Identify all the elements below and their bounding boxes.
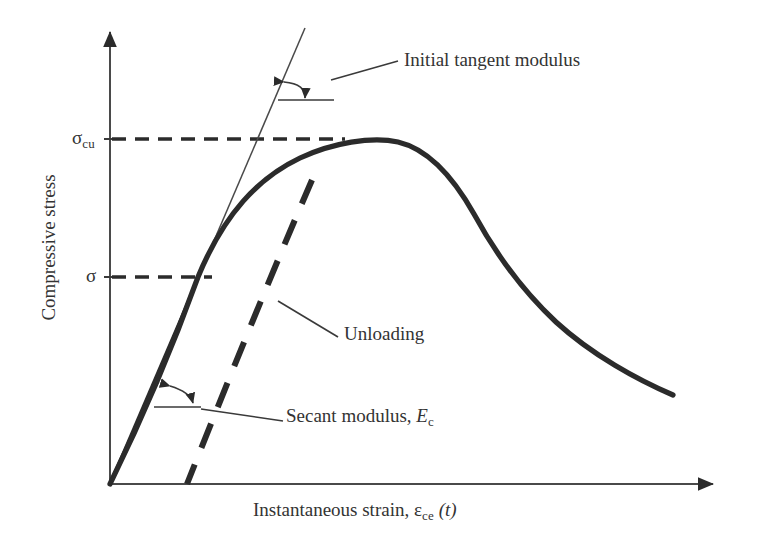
annotation-unloading: Unloading: [344, 324, 424, 343]
x-axis-label: Instantaneous strain, εce (t): [253, 500, 457, 522]
sigma-cu-subscript: cu: [82, 136, 95, 151]
secant-modulus-leader: [201, 409, 283, 421]
secant-angle-arc: [170, 386, 193, 403]
secant-modulus-symbol: E: [416, 405, 428, 426]
unloading-line: [187, 180, 312, 484]
initial-tangent-modulus-leader: [331, 61, 398, 80]
annotation-secant-modulus: Secant modulus, Ec: [286, 406, 434, 428]
x-axis-label-prefix: Instantaneous strain,: [253, 499, 414, 520]
annotation-initial-tangent-modulus: Initial tangent modulus: [404, 50, 580, 69]
x-axis-label-suffix: (t): [439, 499, 457, 520]
initial-tangent-angle-mark: [278, 82, 334, 100]
secant-modulus-subscript: c: [428, 414, 434, 429]
stress-strain-figure: [0, 0, 758, 540]
sigma-cu-symbol: σ: [72, 127, 82, 148]
secant-modulus-text: Secant modulus,: [286, 405, 416, 426]
y-axis-label: Compressive stress: [39, 138, 58, 358]
x-axis-label-subscript: ce: [422, 508, 434, 523]
x-axis-label-symbol: ε: [414, 499, 422, 520]
stress-strain-curve: [110, 140, 673, 484]
y-tick-label-sigma: σ: [86, 266, 96, 285]
sigma-symbol: σ: [86, 265, 96, 286]
secant-angle-mark: [154, 386, 201, 407]
unloading-leader: [278, 301, 338, 337]
figure-canvas: Compressive stress Instantaneous strain,…: [0, 0, 758, 540]
tangent-angle-arc: [284, 82, 305, 98]
y-tick-label-sigma-cu: σcu: [72, 128, 95, 150]
